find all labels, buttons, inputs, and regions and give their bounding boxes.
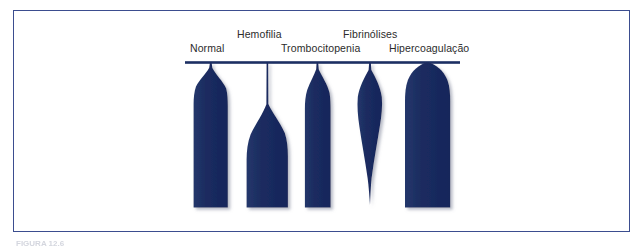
label-hemofilia: Hemofilia — [237, 28, 282, 40]
label-trombocitopenia: Trombocitopenia — [281, 42, 360, 54]
figure-caption: FIGURA 12.6 — [16, 239, 64, 248]
label-hipercoagulacao: Hipercoagulação — [389, 42, 469, 54]
tracing-normal — [194, 63, 228, 208]
label-fibrinolises: Fibrinólises — [343, 28, 397, 40]
tracing-trombocitopenia — [305, 63, 331, 208]
teg-diagram — [0, 0, 643, 250]
tracing-fibrinolises — [357, 63, 382, 206]
tracing-hemofilia — [247, 63, 288, 208]
label-normal: Normal — [190, 42, 224, 54]
tracing-hipercoagulacao — [405, 62, 450, 207]
baseline — [185, 61, 460, 64]
